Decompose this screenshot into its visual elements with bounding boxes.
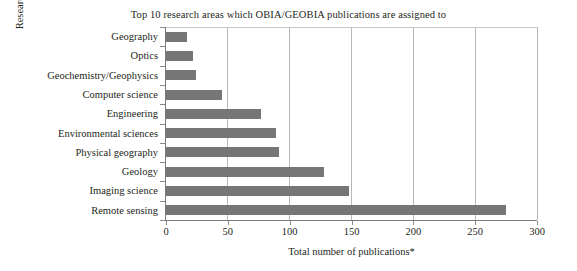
x-axis-tick-mark: [352, 221, 353, 225]
y-axis-tick-label: Environmental sciences: [58, 124, 158, 143]
y-axis-tick-mark: [160, 201, 165, 202]
x-axis-tick-label: 50: [208, 226, 248, 237]
chart-figure: Top 10 research areas which OBIA/GEOBIA …: [0, 0, 577, 271]
y-axis-tick-mark: [160, 181, 165, 182]
y-axis-tick-mark: [160, 220, 165, 221]
bar: [166, 51, 193, 61]
gridline-250: [475, 27, 476, 220]
y-axis-tick-mark: [160, 104, 165, 105]
y-axis-tick-mark: [160, 124, 165, 125]
y-axis-title: Research area: [14, 0, 25, 60]
y-axis-tick-label: Imaging science: [89, 181, 158, 200]
y-axis-tick-label: Geochemistry/Geophysics: [47, 66, 158, 85]
x-axis-title: Total number of publications*: [166, 246, 537, 257]
x-axis-tick-mark: [166, 221, 167, 225]
x-axis-tick-label: 0: [146, 226, 186, 237]
x-axis-tick-mark: [228, 221, 229, 225]
y-axis-tick-mark: [160, 46, 165, 47]
y-axis-tick-label: Geology: [122, 162, 158, 181]
bar: [166, 147, 279, 157]
gridline-200: [413, 27, 414, 220]
y-axis-tick-label: Physical geography: [75, 143, 158, 162]
plot-area: [166, 27, 537, 220]
x-axis-tick-mark: [475, 221, 476, 225]
gridline-300: [537, 27, 538, 220]
x-axis-tick-label: 100: [270, 226, 310, 237]
x-axis-tick-mark: [290, 221, 291, 225]
bar: [166, 90, 222, 100]
y-axis-tick-mark: [160, 27, 165, 28]
x-axis-tick-mark: [537, 221, 538, 225]
y-axis-tick-label: Remote sensing: [91, 201, 158, 220]
gridline-150: [351, 27, 352, 220]
x-axis-tick-mark: [413, 221, 414, 225]
y-axis-tick-label: Geography: [111, 27, 158, 46]
y-axis-tick-label: Engineering: [107, 104, 158, 123]
y-axis-tick-mark: [160, 143, 165, 144]
y-axis-tick-mark: [160, 162, 165, 163]
bar: [166, 186, 349, 196]
bar: [166, 32, 187, 42]
y-axis-tick-labels: GeographyOpticsGeochemistry/GeophysicsCo…: [34, 27, 162, 220]
bar: [166, 205, 506, 215]
x-axis-tick-label: 200: [393, 226, 433, 237]
chart-title: Top 10 research areas which OBIA/GEOBIA …: [0, 9, 577, 20]
y-axis-tick-label: Optics: [131, 46, 158, 65]
x-axis-tick-label: 150: [332, 226, 372, 237]
bar: [166, 128, 276, 138]
bar: [166, 167, 324, 177]
x-axis-tick-label: 250: [455, 226, 495, 237]
bar: [166, 109, 261, 119]
y-axis-tick-label: Computer science: [82, 85, 158, 104]
bar: [166, 70, 196, 80]
y-axis-tick-mark: [160, 66, 165, 67]
x-axis-tick-label: 300: [517, 226, 557, 237]
y-axis-tick-mark: [160, 85, 165, 86]
